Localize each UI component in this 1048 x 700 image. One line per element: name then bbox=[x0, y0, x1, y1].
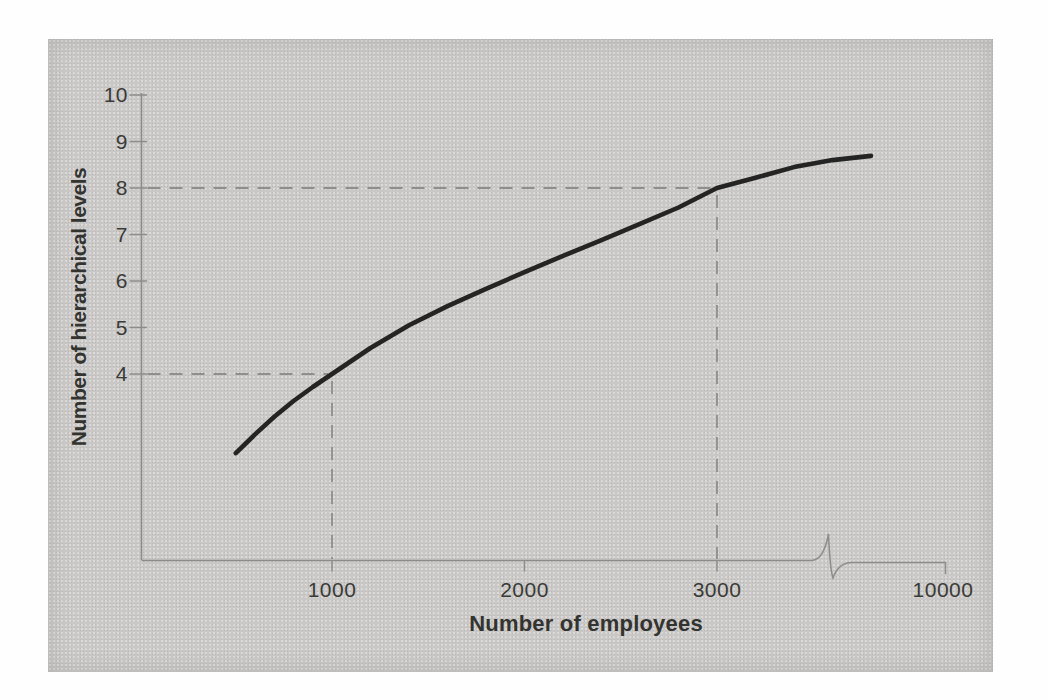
axis-ticks bbox=[130, 95, 718, 572]
y-tick-label: 5 bbox=[58, 316, 128, 340]
x-axis-title: Number of employees bbox=[469, 611, 703, 637]
levels-curve bbox=[236, 156, 871, 453]
reference-dashed-lines bbox=[148, 188, 718, 559]
x-tick-label: 2000 bbox=[470, 578, 580, 602]
x-tick-label: 10000 bbox=[888, 578, 998, 602]
x-axis-line-with-break bbox=[142, 534, 946, 578]
x-tick-label: 1000 bbox=[277, 578, 387, 602]
y-tick-label: 8 bbox=[58, 176, 128, 200]
y-tick-label: 6 bbox=[58, 269, 128, 293]
y-tick-label: 7 bbox=[58, 223, 128, 247]
y-tick-label: 9 bbox=[58, 130, 128, 154]
x-tick-label: 3000 bbox=[662, 578, 772, 602]
y-tick-label: 4 bbox=[58, 362, 128, 386]
data-curve bbox=[236, 156, 871, 453]
y-tick-label: 10 bbox=[58, 83, 128, 107]
y-axis-title: Number of hierarchical levels bbox=[67, 168, 91, 446]
scanned-book-page: Number of employees Number of hierarchic… bbox=[0, 0, 1048, 700]
